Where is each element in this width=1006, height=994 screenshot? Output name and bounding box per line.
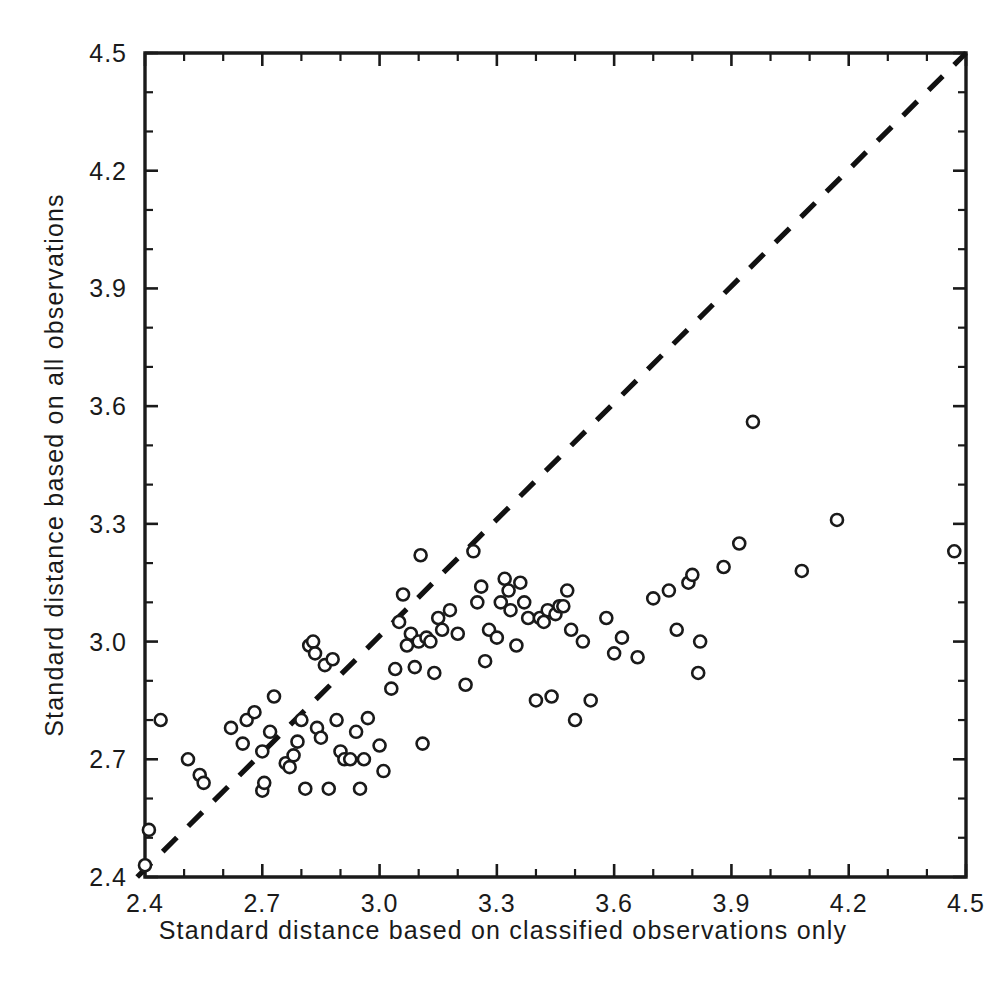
data-point — [538, 616, 550, 628]
data-point — [467, 545, 479, 557]
data-point — [522, 612, 534, 624]
y-tick-label: 2.4 — [89, 863, 127, 892]
data-point — [499, 573, 511, 585]
data-point — [295, 714, 307, 726]
data-point — [530, 694, 542, 706]
data-point — [733, 537, 745, 549]
data-point — [569, 714, 581, 726]
y-tick-label: 3.3 — [89, 509, 127, 538]
data-point — [460, 679, 472, 691]
data-point — [432, 612, 444, 624]
x-tick-label: 4.5 — [947, 889, 985, 918]
data-point — [565, 624, 577, 636]
data-point — [344, 753, 356, 765]
data-point — [327, 653, 339, 665]
data-point — [374, 740, 386, 752]
data-point — [948, 545, 960, 557]
y-tick-label: 3.9 — [89, 274, 127, 303]
data-point — [198, 777, 210, 789]
y-axis-title: Standard distance based on all observati… — [40, 53, 69, 877]
data-point — [479, 655, 491, 667]
data-point — [258, 777, 270, 789]
plot-canvas — [0, 0, 1006, 994]
x-tick-label: 2.7 — [243, 889, 281, 918]
data-point — [354, 783, 366, 795]
data-point — [428, 667, 440, 679]
data-point — [155, 714, 167, 726]
data-point — [632, 651, 644, 663]
data-point — [397, 588, 409, 600]
data-point — [514, 577, 526, 589]
data-point — [585, 694, 597, 706]
data-point — [444, 604, 456, 616]
data-point — [417, 738, 429, 750]
y-tick-label: 4.2 — [89, 156, 127, 185]
data-point — [225, 722, 237, 734]
data-point — [256, 745, 268, 757]
data-point — [401, 640, 413, 652]
data-point — [237, 738, 249, 750]
x-tick-label: 2.4 — [126, 889, 164, 918]
data-point — [671, 624, 683, 636]
data-point — [686, 569, 698, 581]
data-point-group — [139, 416, 960, 871]
data-point — [309, 647, 321, 659]
data-point — [510, 640, 522, 652]
data-point — [377, 765, 389, 777]
data-point — [471, 596, 483, 608]
data-point — [694, 636, 706, 648]
data-point — [358, 753, 370, 765]
data-point — [139, 859, 151, 871]
data-point — [577, 636, 589, 648]
data-point — [747, 416, 759, 428]
data-point — [647, 592, 659, 604]
data-point — [452, 628, 464, 640]
x-axis-title: Standard distance based on classified ob… — [0, 916, 1006, 945]
data-point — [409, 661, 421, 673]
data-point — [323, 783, 335, 795]
data-point — [268, 691, 280, 703]
data-point — [362, 712, 374, 724]
y-tick-label: 3.6 — [89, 392, 127, 421]
data-point — [831, 514, 843, 526]
y-tick-label: 4.5 — [89, 39, 127, 68]
data-point — [385, 683, 397, 695]
data-point — [505, 604, 517, 616]
y-tick-label: 2.7 — [89, 745, 127, 774]
data-point — [288, 749, 300, 761]
data-point — [182, 753, 194, 765]
data-point — [557, 600, 569, 612]
data-point — [350, 726, 362, 738]
x-tick-label: 4.2 — [830, 889, 868, 918]
data-point — [796, 565, 808, 577]
data-point — [718, 561, 730, 573]
data-point — [424, 636, 436, 648]
data-point — [491, 632, 503, 644]
data-point — [518, 596, 530, 608]
y-tick-label: 3.0 — [89, 627, 127, 656]
data-point — [248, 706, 260, 718]
data-point — [663, 585, 675, 597]
data-point — [475, 581, 487, 593]
data-point — [291, 736, 303, 748]
data-point — [546, 691, 558, 703]
data-point — [436, 624, 448, 636]
scatter-plot-figure: 2.42.73.03.33.63.94.24.5 2.42.73.03.33.6… — [0, 0, 1006, 994]
data-point — [284, 761, 296, 773]
x-tick-label: 3.0 — [361, 889, 399, 918]
data-point — [389, 663, 401, 675]
data-point — [331, 714, 343, 726]
data-point — [608, 647, 620, 659]
data-point — [415, 549, 427, 561]
data-point — [561, 585, 573, 597]
data-point — [503, 585, 515, 597]
x-tick-label: 3.3 — [478, 889, 516, 918]
data-point — [299, 783, 311, 795]
data-point — [600, 612, 612, 624]
data-point — [315, 732, 327, 744]
x-tick-label: 3.6 — [595, 889, 633, 918]
data-point — [264, 726, 276, 738]
data-point — [616, 632, 628, 644]
data-point — [692, 667, 704, 679]
data-point — [143, 824, 155, 836]
